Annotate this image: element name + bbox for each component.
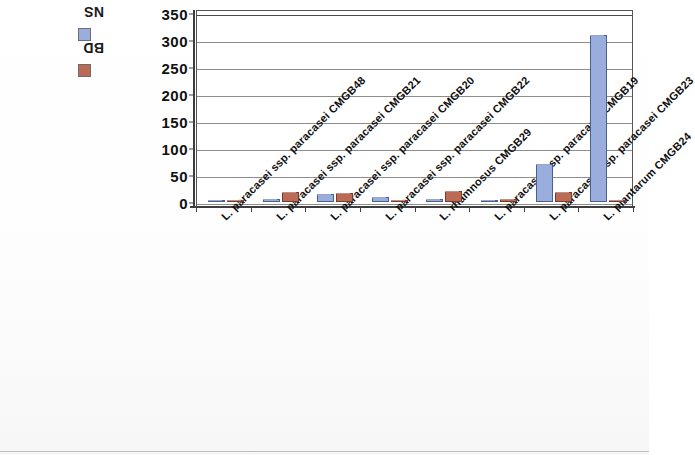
bar-top-cap [554,190,569,193]
bar-ns [317,194,334,202]
bar-top-cap [335,191,350,194]
bar-ns [426,199,443,202]
bar-bd [336,193,353,202]
bar-top-cap [444,189,459,192]
bar-top-cap [316,192,331,195]
bar-bd [445,191,462,202]
bar-top-cap [207,198,222,201]
bar-ns [372,197,389,202]
bar-top-cap [262,197,277,200]
bar-bd [500,199,517,202]
bar-top-cap [226,198,241,201]
bar-ns [263,199,280,202]
bar-ns [208,200,225,202]
bar-bd [227,200,244,202]
bar-top-cap [608,198,623,201]
bar-top-cap [390,198,405,201]
bar-top-cap [480,198,495,201]
bar-top-cap [499,197,514,200]
bar-bd [609,200,626,202]
bar-ns [590,35,607,202]
page-divider [0,451,649,452]
bar-top-cap [281,190,296,193]
bar-bd [282,192,299,202]
bar-bd [555,192,572,202]
bar-ns [536,164,553,202]
bar-top-cap [535,162,550,165]
bar-ns [481,200,498,202]
bar-bd [391,200,408,202]
x-axis-label: L. rhamnosus CMGB29 [437,126,534,223]
bar-top-cap [589,33,604,36]
bar-top-cap [425,197,440,200]
bar-top-cap [371,195,386,198]
